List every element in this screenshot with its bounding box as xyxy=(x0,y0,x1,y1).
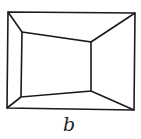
connector-top-right xyxy=(91,13,135,42)
connector-top-left xyxy=(8,12,22,32)
connector-bottom-right xyxy=(91,91,134,110)
figure-label: b xyxy=(60,113,78,135)
connector-bottom-left xyxy=(7,97,21,108)
inner-quadrilateral xyxy=(21,32,91,97)
outer-rectangle xyxy=(7,12,135,110)
